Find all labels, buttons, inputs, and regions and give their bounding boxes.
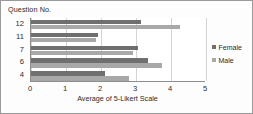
legend-swatch-icon — [212, 58, 216, 62]
legend-swatch-icon — [212, 45, 216, 49]
x-axis-title: Average of 5-Likert Scale — [30, 94, 205, 103]
bar-male-q12 — [31, 25, 180, 29]
legend-label: Male — [219, 57, 234, 64]
legend-item-male[interactable]: Male — [212, 55, 242, 65]
bar-female-q6 — [31, 58, 148, 62]
bar-female-q11 — [31, 33, 98, 37]
x-tick-label: 2 — [98, 84, 102, 93]
x-tick-label: 3 — [133, 84, 137, 93]
x-tick-label: 5 — [203, 84, 207, 93]
x-tick-label: 4 — [168, 84, 172, 93]
plot-area — [30, 18, 205, 82]
bar-female-q12 — [31, 20, 141, 24]
bar-male-q11 — [31, 38, 96, 42]
chart-legend: FemaleMale — [212, 42, 242, 68]
bar-female-q7 — [31, 46, 138, 50]
bar-group — [31, 69, 205, 82]
bar-male-q4 — [31, 76, 129, 80]
y-axis-title: Question No. — [8, 5, 51, 14]
bar-male-q6 — [31, 63, 162, 67]
bar-chart-figure: Question No. 1211764 012345 Average of 5… — [0, 0, 253, 114]
gridline — [206, 18, 207, 81]
bar-female-q4 — [31, 71, 105, 75]
bar-male-q7 — [31, 51, 133, 55]
legend-item-female[interactable]: Female — [212, 42, 242, 52]
y-tick-label: 11 — [16, 31, 24, 44]
x-tick-label: 0 — [28, 84, 32, 93]
bar-group — [31, 56, 205, 69]
x-axis-tick-labels: 012345 — [30, 84, 205, 94]
y-tick-label: 12 — [16, 18, 24, 31]
y-axis-tick-labels: 1211764 — [1, 18, 27, 82]
x-tick-label: 1 — [63, 84, 67, 93]
legend-label: Female — [219, 44, 242, 51]
bar-group — [31, 44, 205, 57]
bar-group — [31, 18, 205, 31]
bars-layer — [31, 18, 205, 81]
y-tick-label: 4 — [20, 69, 24, 82]
bar-group — [31, 31, 205, 44]
y-tick-label: 6 — [20, 56, 24, 69]
y-tick-label: 7 — [20, 44, 24, 57]
